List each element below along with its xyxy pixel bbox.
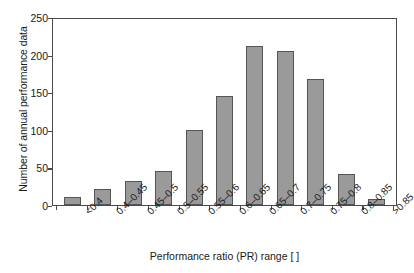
y-tick-label: 250: [20, 13, 48, 23]
bar-slot: [57, 19, 87, 205]
bar-slot: [362, 19, 392, 205]
chart-figure: Number of annual performance data 050100…: [0, 0, 414, 273]
x-tick-label: 0.55–0.6: [206, 209, 214, 217]
bar-slot: [240, 19, 270, 205]
bar[interactable]: [246, 46, 263, 205]
bar-slot: [87, 19, 117, 205]
x-tick-label: 0.4–0.45: [114, 209, 122, 217]
plot-area: [52, 18, 397, 206]
y-tick-label: 50: [20, 163, 48, 173]
y-tick-label: 200: [20, 51, 48, 61]
y-tick-label: 0: [20, 201, 48, 211]
x-tick-label: >0.85: [390, 209, 398, 217]
x-tick-label: 0.65–0.7: [267, 209, 275, 217]
x-tick-label: 0.8–0.85: [359, 209, 367, 217]
bar[interactable]: [64, 197, 81, 205]
bar-slot: [301, 19, 331, 205]
x-tick-label: 0.7–0.75: [298, 209, 306, 217]
bar-slot: [209, 19, 239, 205]
x-tick-label: 0.6–0.65: [237, 209, 245, 217]
bar-slot: [118, 19, 148, 205]
x-tick-label: <0.4: [83, 209, 91, 217]
bar-slot: [270, 19, 300, 205]
x-axis-tick-labels: <0.40.4–0.450.45–0.50.5–0.550.55–0.60.6–…: [52, 209, 397, 255]
bar-slot: [148, 19, 178, 205]
y-tick-label: 100: [20, 126, 48, 136]
x-tick-label: 0.75–0.8: [328, 209, 336, 217]
bar-series: [53, 19, 396, 205]
y-tick-label: 150: [20, 88, 48, 98]
x-tick-label: 0.5–0.55: [175, 209, 183, 217]
bar[interactable]: [277, 51, 294, 205]
bar-slot: [331, 19, 361, 205]
x-axis-title: Performance ratio (PR) range [ ]: [52, 250, 397, 262]
bar-slot: [179, 19, 209, 205]
y-axis-tick-labels: 050100150200250: [20, 0, 48, 273]
x-tick-label: 0.45–0.5: [145, 209, 153, 217]
